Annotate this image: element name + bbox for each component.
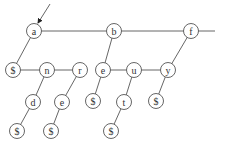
- trie-node-y: y: [161, 63, 176, 78]
- node-label: $: [11, 65, 16, 76]
- trie-node-s2: $: [86, 94, 101, 109]
- trie-node-s4: $: [10, 124, 25, 139]
- trie-node-d: d: [26, 95, 41, 110]
- node-label: d: [31, 97, 36, 108]
- node-label: $: [109, 126, 114, 137]
- trie-node-b: b: [107, 24, 122, 39]
- trie-node-n: n: [40, 63, 55, 78]
- nodes: abf$nreuyde$t$$$$: [6, 24, 199, 139]
- node-label: a: [32, 26, 37, 37]
- trie-node-e2: e: [55, 95, 70, 110]
- trie-node-t: t: [117, 95, 132, 110]
- trie-node-s5: $: [44, 124, 59, 139]
- node-label: $: [15, 126, 20, 137]
- trie-diagram: abf$nreuyde$t$$$$: [0, 0, 227, 150]
- node-label: $: [154, 96, 159, 107]
- trie-node-e1: e: [96, 63, 111, 78]
- node-label: t: [123, 97, 126, 108]
- trie-node-s1: $: [6, 63, 21, 78]
- node-label: y: [166, 65, 171, 76]
- node-label: u: [132, 65, 137, 76]
- node-label: n: [45, 65, 50, 76]
- trie-node-r: r: [73, 63, 88, 78]
- node-label: e: [101, 65, 106, 76]
- trie-node-s3: $: [149, 94, 164, 109]
- node-label: $: [49, 126, 54, 137]
- node-label: $: [91, 96, 96, 107]
- edges: [13, 31, 215, 131]
- trie-node-u: u: [127, 63, 142, 78]
- entry-arrow-icon: [38, 4, 50, 23]
- trie-node-s6: $: [104, 124, 119, 139]
- trie-node-a: a: [27, 24, 42, 39]
- node-label: e: [60, 97, 65, 108]
- trie-node-f: f: [184, 24, 199, 39]
- entry-arrow: [38, 4, 50, 23]
- node-label: b: [112, 26, 117, 37]
